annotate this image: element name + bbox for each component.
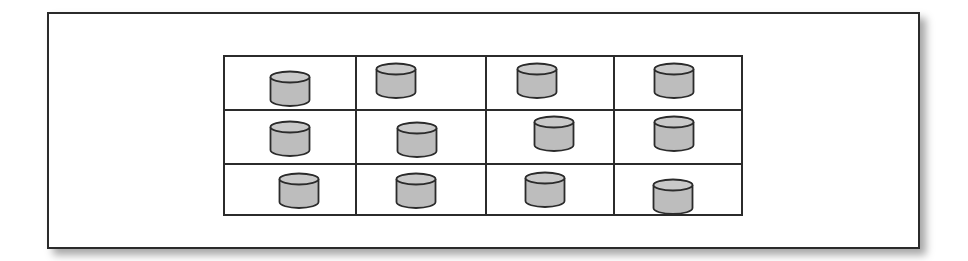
database-cylinder-icon [653,62,695,100]
database-cylinder-icon [516,62,558,100]
database-cylinder-icon [375,62,417,100]
database-cylinder-icon [269,120,311,158]
database-cylinder-icon [396,121,438,159]
database-cylinder-icon [524,171,566,209]
database-cylinder-icon [533,115,575,153]
database-cylinder-icon [395,172,437,210]
row-divider-1 [225,109,741,111]
database-cylinder-icon [278,172,320,210]
column-divider-1 [355,57,357,214]
row-divider-2 [225,163,741,165]
database-cylinder-icon [269,70,311,108]
database-cylinder-icon [652,178,694,216]
database-cylinder-icon [653,115,695,153]
column-divider-2 [485,57,487,214]
column-divider-3 [613,57,615,214]
